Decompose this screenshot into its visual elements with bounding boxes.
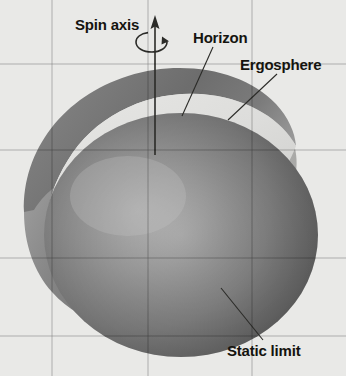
label-static-limit: Static limit (227, 343, 300, 358)
kerr-black-hole-figure: Spin axis Horizon Ergosphere Static limi… (0, 0, 346, 376)
label-ergosphere: Ergosphere (240, 57, 321, 72)
static-limit-sphere (44, 113, 318, 357)
rotation-arrow-icon (136, 33, 169, 52)
sphere-highlight (70, 156, 186, 236)
label-horizon: Horizon (193, 30, 247, 45)
label-spin-axis: Spin axis (75, 17, 139, 32)
